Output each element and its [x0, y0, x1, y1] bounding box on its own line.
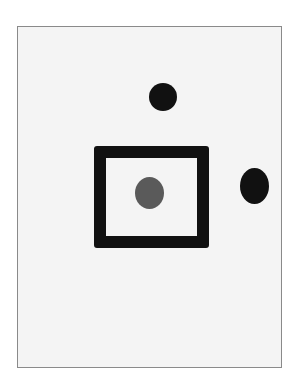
top-black-dot	[149, 83, 177, 111]
inner-gray-dot	[135, 177, 164, 209]
right-black-dot	[240, 168, 269, 204]
